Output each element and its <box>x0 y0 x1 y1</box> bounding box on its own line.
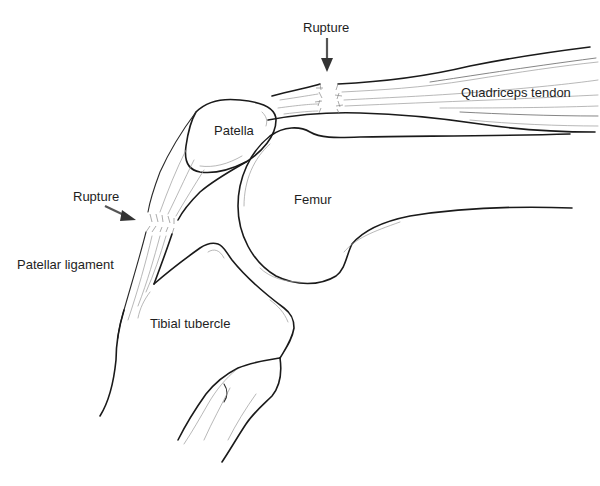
patella-label: Patella <box>214 124 254 137</box>
fibula <box>178 358 281 462</box>
femur-label: Femur <box>294 193 332 206</box>
rupture-label-top: Rupture <box>303 21 349 34</box>
knee-anatomy-diagram <box>0 0 600 486</box>
quadriceps-tendon-label: Quadriceps tendon <box>461 86 571 99</box>
patellar-ligament <box>118 112 246 338</box>
rupture-arrow-patellar <box>105 206 136 221</box>
tibial-tubercle-label: Tibial tubercle <box>150 317 230 330</box>
rupture-arrow-quadriceps <box>321 38 333 72</box>
patellar-ligament-label: Patellar ligament <box>17 258 114 271</box>
rupture-label-left: Rupture <box>73 190 119 203</box>
femur <box>238 128 572 284</box>
